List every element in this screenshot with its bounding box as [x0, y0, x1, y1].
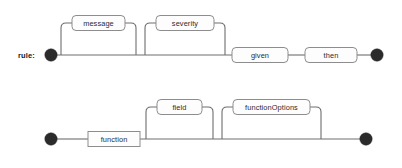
railroad-diagram-then: then: function field functionOptions [0, 84, 402, 168]
then-node-functionoptions-label: functionOptions [245, 103, 298, 112]
then-node-function-label: function [101, 135, 128, 144]
railroad-diagram-canvas: rule: message severity given [0, 0, 402, 168]
then-diagram-svg: function field functionOptions [0, 84, 402, 168]
railroad-diagram-rule: rule: message severity given [0, 0, 402, 84]
rule-node-given-label: given [251, 51, 269, 60]
then-start-node [45, 133, 57, 145]
rule-start-node [45, 49, 57, 61]
rule-node-message-label: message [83, 19, 114, 28]
rule-end-node [371, 49, 383, 61]
then-end-node [360, 133, 372, 145]
rule-node-severity-label: severity [172, 19, 198, 28]
rule-diagram-svg: message severity given then [0, 0, 402, 84]
then-node-field-label: field [172, 103, 186, 112]
rule-node-then-label: then [324, 51, 339, 60]
